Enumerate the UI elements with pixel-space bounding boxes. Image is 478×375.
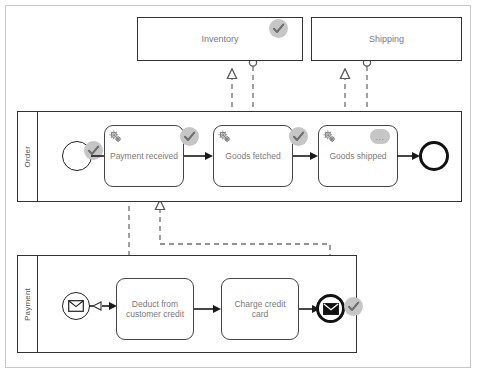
lane-header-payment: Payment — [18, 256, 38, 352]
pool-shipping-label: Shipping — [312, 34, 461, 44]
task-goods-shipped-label: Goods shipped — [323, 151, 393, 161]
sequence-flow-payment-start-to-deduct — [88, 299, 118, 313]
payment-message-end-event-status-badge[interactable] — [344, 297, 363, 316]
service-gear-icon — [217, 129, 232, 144]
pool-inventory-status-badge[interactable] — [269, 19, 288, 38]
task-goods-fetched[interactable]: Goods fetched — [213, 125, 293, 187]
task-deduct-from-customer-credit-label: Deduct from customer credit — [121, 299, 189, 319]
pool-shipping[interactable]: Shipping — [311, 17, 462, 61]
lane-order-label: Order — [23, 146, 32, 167]
task-payment-received-status-badge[interactable] — [180, 127, 199, 146]
bpmn-diagram-canvas: Inventory Shipping Order — [0, 0, 478, 375]
sequence-flow-goods-fetched-to-goods-shipped — [292, 150, 320, 164]
task-charge-credit-card[interactable]: Charge credit card — [221, 278, 299, 340]
task-payment-received[interactable]: Payment received — [104, 125, 184, 187]
task-goods-shipped-status-badge[interactable]: ... — [370, 129, 390, 144]
task-payment-received-label: Payment received — [109, 151, 179, 161]
payment-message-end-event[interactable] — [316, 294, 345, 323]
payment-message-start-event[interactable] — [62, 292, 90, 320]
check-icon — [183, 130, 196, 143]
check-icon — [292, 130, 305, 143]
order-end-event[interactable] — [419, 141, 449, 171]
sequence-flow-payment-received-to-goods-fetched — [183, 150, 215, 164]
check-icon — [347, 300, 360, 313]
envelope-filled-icon — [323, 303, 339, 315]
task-goods-fetched-label: Goods fetched — [218, 151, 288, 161]
sequence-flow-deduct-to-charge — [193, 303, 223, 317]
check-icon — [272, 22, 285, 35]
task-charge-credit-card-label: Charge credit card — [226, 299, 294, 319]
task-deduct-from-customer-credit[interactable]: Deduct from customer credit — [116, 278, 194, 340]
lane-payment-label: Payment — [23, 288, 32, 321]
service-gear-icon — [108, 129, 123, 144]
pending-dots-icon: ... — [375, 134, 384, 140]
service-gear-icon — [322, 129, 337, 144]
lane-header-order: Order — [18, 112, 38, 201]
envelope-icon — [68, 300, 84, 312]
task-goods-fetched-status-badge[interactable] — [289, 127, 308, 146]
